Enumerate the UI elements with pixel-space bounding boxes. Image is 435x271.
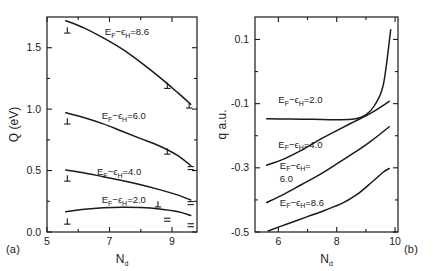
figure-container: (a) (b) 579 0.00.51.01.5 EF−ϵH=8.6EF−ϵH=… — [0, 0, 435, 271]
ytick-label: -0.5 — [231, 226, 249, 238]
panel-a-xtick-labels: 579 — [44, 235, 175, 247]
perp-marker — [155, 201, 161, 207]
panel-b-curve-labels: EF−ϵH=2.0EF−ϵH=4.0EF−ϵH=6.0EF−ϵH=8.6 — [278, 94, 324, 209]
data-curve — [66, 207, 191, 215]
curve-label: EF−ϵH=6.0 — [102, 110, 146, 123]
xtick-label: 8 — [334, 235, 340, 247]
curve-label: EF−ϵH=2.0 — [278, 94, 322, 107]
y-axis-title: q a.u. — [215, 109, 229, 139]
ytick-label: -0.1 — [231, 97, 249, 109]
curve-label: EF−ϵH=4.0 — [97, 166, 141, 179]
xtick-label: 6 — [275, 235, 281, 247]
panel-b-ticks — [255, 17, 398, 232]
perp-marker — [64, 118, 70, 124]
ytick-label: 0.0 — [26, 226, 41, 238]
ytick-label: -0.3 — [231, 161, 249, 173]
curve-label: EF−ϵH= — [280, 160, 311, 173]
xtick-label: 7 — [107, 235, 113, 247]
x-axis-title: Nd — [116, 252, 129, 267]
equal-marker — [188, 167, 194, 170]
perp-marker — [64, 27, 70, 33]
perp-marker — [186, 102, 192, 108]
xtick-label: 10 — [389, 235, 401, 247]
curve-label: EF−ϵH=8.6 — [280, 197, 324, 210]
ytick-label: 1.5 — [26, 41, 41, 53]
panel-b-frame — [255, 17, 398, 232]
panel-b-xtick-labels: 6810 — [275, 235, 401, 247]
perp-marker — [64, 218, 70, 224]
curve-label: EF−ϵH=2.0 — [102, 194, 146, 207]
xtick-label: 5 — [44, 235, 50, 247]
curve-label: EF−ϵH=4.0 — [278, 139, 322, 152]
equal-marker — [188, 202, 194, 205]
panel-a-ytick-labels: 0.00.51.01.5 — [26, 41, 41, 237]
xtick-label: 9 — [169, 235, 175, 247]
ytick-label: 0.1 — [234, 33, 249, 45]
perp-marker — [64, 175, 70, 181]
ytick-label: 0.5 — [26, 164, 41, 176]
panel-b-axis-titles: Ndq a.u. — [215, 109, 333, 267]
curve-label: EF−ϵH=8.6 — [105, 26, 149, 39]
equal-marker — [164, 218, 170, 221]
y-axis-title: Q (eV) — [7, 107, 21, 142]
x-axis-title: Nd — [320, 252, 333, 267]
panel-b-ytick-labels: 0.1-0.1-0.3-0.5 — [231, 33, 249, 238]
curve-label-line2: 6.0 — [280, 173, 293, 184]
equal-marker — [188, 224, 194, 227]
panel-b-tag: (b) — [404, 243, 418, 255]
panel-b: 6810 0.1-0.1-0.3-0.5 EF−ϵH=2.0EF−ϵH=4.0E… — [215, 17, 401, 267]
panel-a-curve-labels: EF−ϵH=8.6EF−ϵH=6.0EF−ϵH=4.0EF−ϵH=2.0 — [97, 26, 149, 206]
panel-a-tag: (a) — [6, 243, 20, 255]
plot-svg: 579 0.00.51.01.5 EF−ϵH=8.6EF−ϵH=6.0EF−ϵH… — [0, 0, 435, 271]
panel-a: 579 0.00.51.01.5 EF−ϵH=8.6EF−ϵH=6.0EF−ϵH… — [7, 17, 197, 267]
ytick-label: 1.0 — [26, 103, 41, 115]
